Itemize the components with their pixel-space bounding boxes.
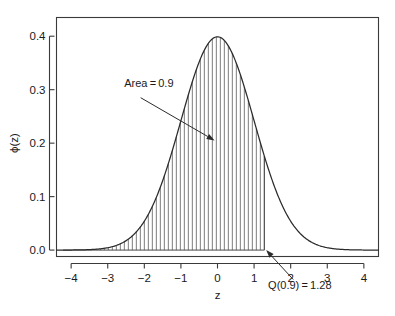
x-tick-label: 4 [361, 272, 368, 284]
density-curve [57, 37, 379, 250]
chart-figure: −4−3−2−101234 0.00.10.20.30.4 z ϕ(z) Are… [0, 0, 395, 316]
x-tick-label: 0 [214, 272, 220, 284]
y-axis-ticks [50, 36, 55, 250]
x-axis-ticks [71, 264, 364, 269]
y-axis-tick-labels: 0.00.10.20.30.4 [30, 30, 47, 256]
quantile-annotation-arrow-line [272, 256, 294, 280]
y-tick-label: 0.3 [30, 84, 46, 96]
y-axis-title: ϕ(z) [8, 133, 20, 153]
normal-distribution-chart: −4−3−2−101234 0.00.10.20.30.4 z ϕ(z) Are… [0, 0, 395, 316]
x-tick-label: −3 [101, 272, 114, 284]
x-tick-label: −1 [174, 272, 187, 284]
y-tick-label: 0.2 [30, 137, 46, 149]
area-annotation: Area = 0.9 [124, 77, 214, 140]
plot-frame [57, 18, 379, 257]
y-axis: 0.00.10.20.30.4 [30, 30, 55, 256]
x-tick-label: 1 [251, 272, 257, 284]
y-tick-label: 0.0 [30, 244, 46, 256]
x-tick-label: −2 [138, 272, 151, 284]
x-axis-title: z [215, 289, 221, 301]
shaded-area-hatching [96, 37, 264, 250]
area-annotation-arrow-line [141, 98, 208, 137]
quantile-annotation-label: Q(0.9) = 1.28 [268, 279, 331, 291]
area-annotation-arrowhead [206, 134, 214, 140]
area-annotation-label: Area = 0.9 [124, 77, 173, 89]
x-tick-label: −4 [65, 272, 79, 284]
y-tick-label: 0.4 [30, 30, 47, 42]
y-tick-label: 0.1 [30, 191, 46, 203]
